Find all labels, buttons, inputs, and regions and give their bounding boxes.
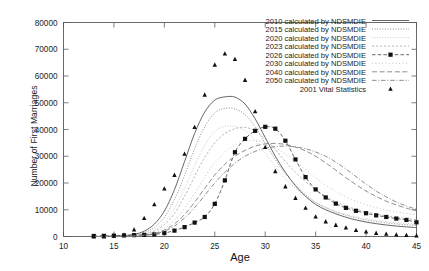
series-marker [374, 231, 378, 235]
series-marker [253, 129, 257, 133]
series-marker [182, 225, 186, 229]
series-marker [223, 178, 227, 182]
series-marker [132, 227, 136, 231]
chart-legend: 2010 calculated by NDSMDIE2015 calculate… [266, 17, 409, 94]
y-tick-label: 10000 [35, 206, 58, 215]
series-marker [293, 196, 297, 200]
y-tick-label: 40000 [35, 126, 58, 135]
y-tick-label: 30000 [35, 152, 58, 161]
x-tick-label: 10 [59, 242, 69, 251]
series-marker [324, 195, 328, 199]
series-marker [203, 92, 207, 96]
series-marker [233, 150, 237, 154]
series-marker [334, 201, 338, 205]
series-line [94, 108, 417, 237]
series-marker [344, 225, 348, 229]
series-marker [414, 220, 418, 224]
y-tick-label: 0 [53, 233, 58, 242]
series-marker [354, 228, 358, 232]
series-marker [172, 173, 176, 177]
legend-key-marker [388, 53, 392, 57]
y-tick-label: 50000 [35, 99, 58, 108]
legend-label: 2001 Vital Statistics [300, 85, 366, 94]
series-marker [283, 139, 287, 143]
x-tick-label: 30 [261, 242, 271, 251]
x-tick-label: 15 [109, 242, 119, 251]
series-marker [182, 151, 186, 155]
series-marker [132, 233, 136, 237]
series-marker [394, 216, 398, 220]
y-tick-label: 70000 [35, 45, 58, 54]
series-marker [152, 202, 156, 206]
series-marker [374, 213, 378, 217]
legend-key-marker [388, 87, 392, 91]
data-series-group [92, 51, 419, 238]
series-marker [303, 205, 307, 209]
series-marker [263, 125, 267, 129]
series-line [94, 127, 417, 236]
series-marker [233, 57, 237, 61]
series-marker [404, 218, 408, 222]
x-axis-ticks: 1015202530354045 [59, 23, 422, 251]
series-marker [142, 216, 146, 220]
y-tick-label: 80000 [35, 19, 58, 28]
series-line [94, 146, 417, 236]
series-marker [243, 137, 247, 141]
x-tick-label: 35 [311, 242, 321, 251]
series-marker [384, 215, 388, 219]
series-marker [273, 127, 277, 131]
series-marker [203, 215, 207, 219]
series-marker [354, 209, 358, 213]
series-marker [364, 229, 368, 233]
series-marker [293, 157, 297, 161]
x-tick-label: 25 [210, 242, 220, 251]
series-line [94, 96, 417, 236]
series-marker [213, 62, 217, 66]
plot-canvas: 0100002000030000400005000060000700008000… [0, 0, 429, 271]
series-marker [334, 223, 338, 227]
series-line [94, 127, 417, 236]
series-marker [243, 78, 247, 82]
series-marker [263, 145, 267, 149]
series-marker [223, 51, 227, 55]
series-marker [384, 231, 388, 235]
chart-figure: Number of First Marriages Age 0100002000… [0, 0, 429, 271]
series-marker [283, 184, 287, 188]
series-marker [364, 211, 368, 215]
series-marker [172, 229, 176, 233]
series-marker [193, 220, 197, 224]
series-marker [303, 175, 307, 179]
series-marker [324, 219, 328, 223]
series-marker [314, 187, 318, 191]
series-marker [313, 214, 317, 218]
series-marker [414, 233, 418, 237]
series-marker [273, 169, 277, 173]
x-tick-label: 20 [160, 242, 170, 251]
series-marker [162, 186, 166, 190]
series-marker [213, 202, 217, 206]
series-marker [394, 232, 398, 236]
series-marker [192, 125, 196, 129]
x-tick-label: 40 [362, 242, 372, 251]
series-marker [253, 109, 257, 113]
x-tick-label: 45 [412, 242, 422, 251]
series-marker [344, 206, 348, 210]
y-tick-label: 60000 [35, 72, 58, 81]
y-tick-label: 20000 [35, 179, 58, 188]
series-marker [404, 233, 408, 237]
